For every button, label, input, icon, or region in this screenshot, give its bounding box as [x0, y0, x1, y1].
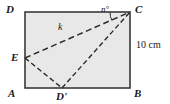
point-label-e: E [11, 52, 18, 63]
segment-length-label-k: k [58, 22, 62, 32]
point-label-d-prime: D' [56, 91, 67, 102]
vertex-label-d: D [6, 4, 14, 15]
rectangle-abcd [25, 12, 130, 88]
angle-label-n-degrees: n° [101, 5, 109, 14]
geometry-canvas [0, 0, 170, 104]
vertex-label-b: B [134, 88, 141, 99]
geometry-figure: D C A B E D' k n° 10 cm [0, 0, 170, 104]
dimension-label-bc: 10 cm [136, 40, 161, 50]
vertex-label-c: C [135, 4, 142, 15]
vertex-label-a: A [8, 88, 15, 99]
